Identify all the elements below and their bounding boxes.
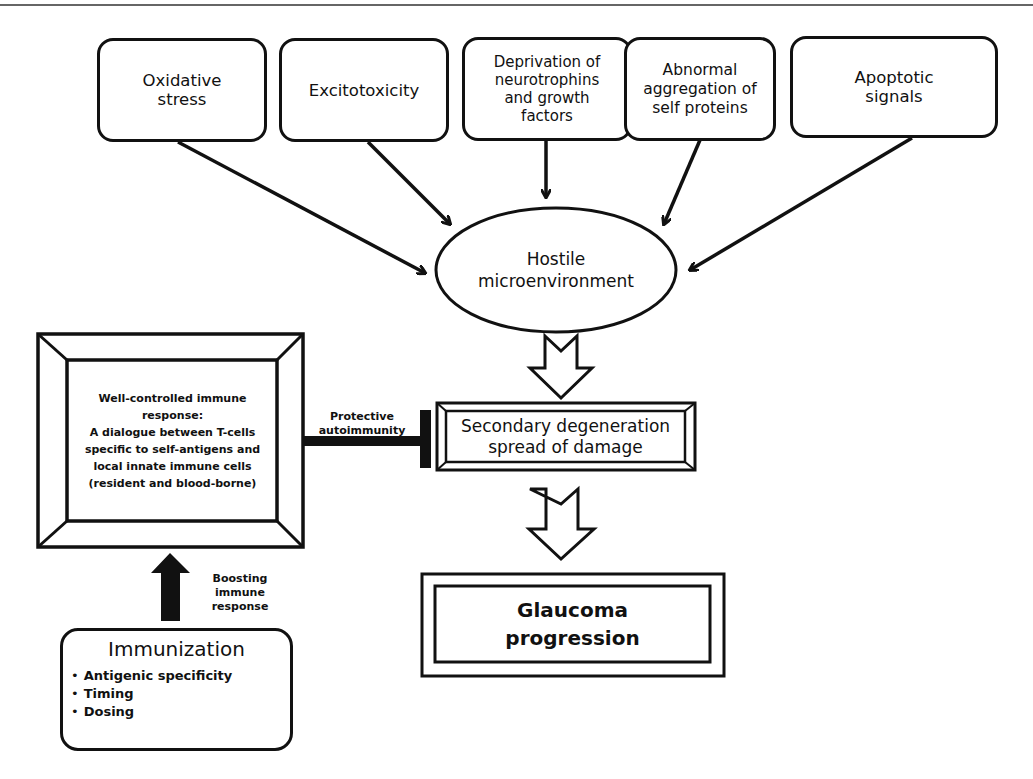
immunization-item: Dosing bbox=[71, 703, 290, 721]
arrow-apoptotic-to-hub bbox=[690, 138, 912, 270]
inhibition-text: Protective autoimmunity bbox=[319, 410, 406, 437]
immunization-list: Antigenic specificity Timing Dosing bbox=[71, 667, 290, 721]
arrow-aggregation-to-hub bbox=[664, 140, 700, 224]
immune-response-text: Well-controlled immune response: A dialo… bbox=[85, 390, 260, 492]
cause-neurotrophin-deprivation: Deprivation of neurotrophins and growth … bbox=[462, 37, 632, 141]
hub-text: Hostile microenvironment bbox=[478, 248, 634, 292]
boosting-immune-response-label: Boosting immune response bbox=[200, 558, 280, 608]
hollow-arrow-secondary-to-glaucoma bbox=[529, 489, 594, 559]
secondary-degeneration-label: Secondary degeneration spread of damage bbox=[447, 412, 684, 462]
cause-label: Deprivation of neurotrophins and growth … bbox=[494, 53, 601, 125]
immunization-box: Immunization Antigenic specificity Timin… bbox=[60, 628, 293, 751]
immune-response-label: Well-controlled immune response: A dialo… bbox=[70, 362, 275, 519]
cause-apoptotic-signals: Apoptotic signals bbox=[790, 36, 998, 138]
boost-text: Boosting immune response bbox=[212, 572, 269, 613]
arrow-excitotoxicity-to-hub bbox=[368, 142, 450, 224]
glaucoma-progression-label: Glaucoma progression bbox=[436, 587, 709, 661]
cause-protein-aggregation: Abnormal aggregation of self proteins bbox=[624, 37, 776, 141]
outcome-text: Glaucoma progression bbox=[505, 596, 639, 652]
cause-excitotoxicity: Excitotoxicity bbox=[279, 38, 449, 142]
hollow-arrow-hub-to-secondary bbox=[530, 336, 592, 398]
cause-label: Excitotoxicity bbox=[309, 81, 419, 100]
immunization-item: Timing bbox=[71, 685, 290, 703]
boost-arrow bbox=[151, 553, 190, 621]
cause-label: Abnormal aggregation of self proteins bbox=[643, 61, 757, 118]
immunization-title: Immunization bbox=[63, 637, 290, 661]
secondary-text: Secondary degeneration spread of damage bbox=[461, 416, 670, 458]
cause-label: Apoptotic signals bbox=[854, 68, 933, 106]
cause-label: Oxidative stress bbox=[143, 71, 222, 109]
protective-autoimmunity-label: Protective autoimmunity bbox=[310, 396, 414, 428]
immunization-item: Antigenic specificity bbox=[71, 667, 290, 685]
hub-label: Hostile microenvironment bbox=[440, 230, 672, 310]
cause-oxidative-stress: Oxidative stress bbox=[97, 38, 267, 142]
